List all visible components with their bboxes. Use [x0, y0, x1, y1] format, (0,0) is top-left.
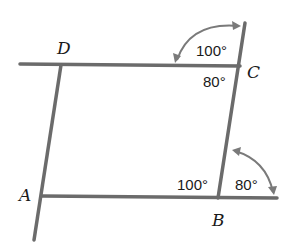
- arrowhead-icon: [268, 186, 277, 195]
- vertex-label-a: A: [17, 185, 31, 205]
- line-da-transversal: [34, 65, 61, 240]
- vertex-label-b: B: [211, 210, 225, 230]
- vertex-label-c: C: [247, 62, 260, 82]
- line-ab: [42, 196, 277, 198]
- angle-label-b-exterior: 80°: [235, 176, 258, 193]
- line-dc: [20, 64, 240, 66]
- angle-label-c-interior: 80°: [203, 73, 226, 90]
- arrowhead-icon: [232, 21, 241, 30]
- geometry-diagram: D C A B 100° 80° 100° 80°: [0, 0, 295, 247]
- vertex-label-d: D: [56, 38, 71, 58]
- angle-label-b-interior: 100°: [177, 176, 208, 193]
- angle-label-c-exterior: 100°: [196, 42, 227, 59]
- arrowhead-icon: [232, 147, 241, 156]
